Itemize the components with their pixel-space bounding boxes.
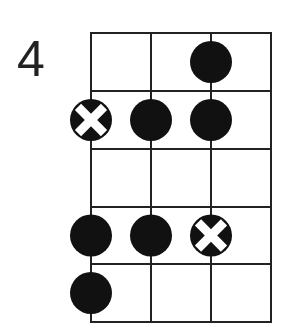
- note-dot-icon: [130, 99, 172, 141]
- note-dot-icon: [70, 215, 112, 257]
- note-dot-icon: [190, 99, 232, 141]
- note-dot-icon: [190, 41, 232, 83]
- note-dot-icon: [130, 215, 172, 257]
- root-x-marker-icon: [70, 99, 112, 141]
- note-dot-icon: [70, 272, 112, 314]
- root-x-marker-icon: [190, 215, 232, 257]
- fretboard-grid: [0, 0, 291, 331]
- grid-lines: [90, 33, 272, 322]
